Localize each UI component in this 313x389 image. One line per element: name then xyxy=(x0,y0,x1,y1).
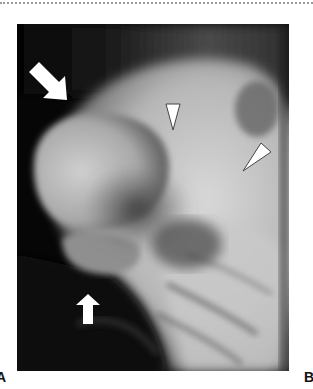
radiograph-image xyxy=(17,24,289,371)
panel-label-b: B xyxy=(304,369,313,385)
panel-label-a: A xyxy=(0,369,6,385)
dotted-separator xyxy=(0,2,313,4)
